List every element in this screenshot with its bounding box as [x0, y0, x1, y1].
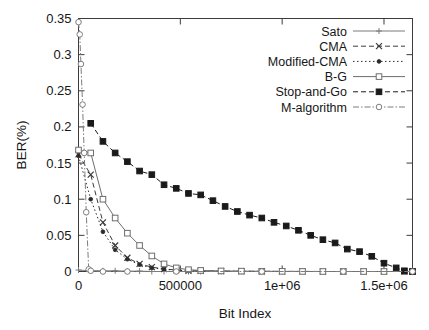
y-tick-label: 0.05	[46, 228, 71, 243]
y-tick-label: 0.25	[46, 83, 71, 98]
data-point-marker	[218, 268, 224, 274]
ber-vs-bit-index-plot: 00.050.10.150.20.250.30.35 05000001e+061…	[0, 0, 429, 330]
data-point-marker	[137, 243, 143, 249]
chart-figure: 00.050.10.150.20.250.30.35 05000001e+061…	[0, 0, 429, 330]
data-point-marker	[138, 263, 142, 267]
data-point-marker	[125, 269, 131, 275]
data-point-marker	[88, 121, 94, 127]
data-point-marker	[357, 249, 363, 255]
legend-label-modified-cma: Modified-CMA	[268, 55, 348, 69]
data-point-marker	[376, 28, 382, 34]
y-tick-label: 0.35	[46, 11, 71, 26]
legend-label-m-algorithm: M-algorithm	[281, 101, 347, 115]
data-point-marker	[369, 254, 375, 260]
x-tick-label: 1e+06	[264, 278, 301, 293]
data-point-marker	[76, 19, 82, 25]
data-point-marker	[76, 147, 82, 153]
data-point-marker	[83, 209, 89, 215]
series-line	[91, 123, 413, 271]
data-point-marker	[186, 191, 192, 197]
data-point-marker	[76, 267, 82, 273]
x-axis-label: Bit Index	[219, 306, 272, 321]
data-point-marker	[88, 172, 94, 178]
data-point-marker	[259, 269, 265, 275]
legend-label-stop-and-go: Stop-and-Go	[275, 85, 347, 99]
series-b-g	[76, 147, 416, 274]
data-point-marker	[393, 265, 399, 271]
data-point-marker	[345, 246, 351, 252]
y-tick-label: 0.1	[53, 192, 71, 207]
series-cma	[76, 151, 416, 274]
data-point-marker	[376, 74, 382, 80]
data-point-marker	[376, 104, 382, 110]
data-point-marker	[410, 269, 416, 275]
data-point-marker	[150, 266, 154, 270]
data-point-marker	[100, 219, 106, 225]
data-point-marker	[149, 172, 155, 178]
data-point-marker	[340, 269, 346, 275]
data-series-layer	[76, 19, 416, 274]
data-point-marker	[332, 240, 338, 246]
data-point-marker	[259, 215, 265, 221]
data-point-marker	[112, 268, 118, 274]
data-point-marker	[173, 186, 179, 192]
x-tick-label: 500000	[159, 278, 202, 293]
y-axis-label: BER(%)	[14, 121, 29, 170]
x-tick-label: 0	[75, 278, 82, 293]
data-point-marker	[77, 154, 81, 158]
data-point-marker	[377, 60, 381, 64]
data-point-marker	[296, 227, 302, 233]
data-point-marker	[101, 230, 105, 234]
data-point-marker	[88, 150, 94, 156]
data-point-marker	[161, 261, 167, 267]
data-point-marker	[149, 253, 155, 259]
data-point-marker	[125, 230, 131, 236]
x-tick-label: 1.5e+06	[360, 278, 407, 293]
data-point-marker	[81, 150, 87, 156]
data-point-marker	[376, 89, 382, 95]
data-point-marker	[210, 198, 216, 204]
data-point-marker	[162, 267, 166, 271]
data-point-marker	[137, 168, 143, 174]
data-point-marker	[271, 220, 277, 226]
data-point-marker	[320, 237, 326, 243]
series-stop-and-go	[88, 121, 415, 275]
data-point-marker	[78, 61, 84, 67]
data-point-marker	[100, 269, 106, 275]
y-tick-label: 0	[64, 264, 71, 279]
legend-label-cma: CMA	[319, 40, 347, 54]
data-point-marker	[112, 215, 118, 221]
data-point-marker	[198, 192, 204, 198]
y-tick-label: 0.15	[46, 156, 71, 171]
data-point-marker	[161, 182, 167, 188]
data-point-marker	[80, 102, 86, 108]
data-point-marker	[222, 204, 228, 210]
chart-legend: SatoCMAModified-CMAB-GStop-and-GoM-algor…	[268, 25, 405, 115]
data-point-marker	[100, 196, 106, 202]
data-point-marker	[247, 212, 253, 218]
data-point-marker	[77, 32, 83, 38]
data-point-marker	[235, 209, 241, 215]
data-point-marker	[89, 197, 93, 201]
data-point-marker	[308, 233, 314, 239]
legend-label-sato: Sato	[321, 25, 347, 39]
y-axis-ticks: 00.050.10.150.20.250.30.35	[46, 11, 412, 279]
data-point-marker	[88, 268, 94, 274]
data-point-marker	[125, 159, 131, 165]
data-point-marker	[198, 268, 204, 274]
data-point-marker	[402, 268, 408, 274]
data-point-marker	[283, 223, 289, 229]
data-point-marker	[173, 269, 179, 275]
data-point-marker	[113, 248, 117, 252]
y-tick-label: 0.2	[53, 119, 71, 134]
data-point-marker	[112, 150, 118, 156]
legend-label-b-g: B-G	[325, 70, 347, 84]
y-tick-label: 0.3	[53, 47, 71, 62]
data-point-marker	[125, 257, 129, 261]
data-point-marker	[381, 260, 387, 266]
data-point-marker	[100, 139, 106, 145]
